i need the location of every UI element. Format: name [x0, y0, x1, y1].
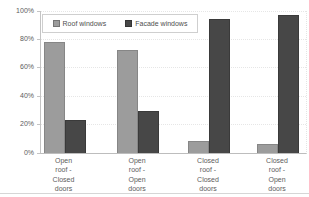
roof-windows-bar-1	[44, 42, 65, 153]
y-axis-label-60: 60%	[0, 63, 34, 71]
y-axis-label-100: 100%	[0, 7, 34, 15]
legend-label-roof-windows: Roof windows	[63, 20, 107, 27]
legend-label-facade-windows: Facade windows	[135, 20, 187, 27]
legend-item-roof-windows: Roof windows	[53, 20, 107, 27]
bar-group-4	[257, 11, 299, 153]
y-axis-label-40: 40%	[0, 92, 34, 100]
category-label-4: Closed roof - Open doors	[251, 156, 303, 193]
roof-windows-swatch-icon	[53, 20, 60, 27]
facade-windows-swatch-icon	[125, 20, 132, 27]
roof-windows-bar-2	[117, 50, 138, 152]
bottom-divider	[0, 193, 309, 194]
facade-windows-bar-3	[209, 19, 230, 152]
facade-windows-bar-1	[65, 120, 86, 153]
legend-item-facade-windows: Facade windows	[125, 20, 187, 27]
roof-windows-bar-4	[257, 144, 278, 153]
category-label-1: Open roof - Closed doors	[38, 156, 90, 193]
facade-windows-bar-4	[278, 15, 299, 153]
category-label-3: Closed roof - Closed doors	[182, 156, 234, 193]
y-axis-label-0: 0%	[0, 149, 34, 157]
legend: Roof windows Facade windows	[42, 14, 198, 33]
roof-windows-bar-3	[188, 141, 209, 152]
y-axis-label-20: 20%	[0, 120, 34, 128]
y-axis-label-80: 80%	[0, 35, 34, 43]
column-chart: 0%20%40%60%80%100% Roof windows Facade w…	[0, 0, 309, 197]
category-label-2: Open roof - Open doors	[111, 156, 163, 193]
facade-windows-bar-2	[138, 111, 159, 152]
